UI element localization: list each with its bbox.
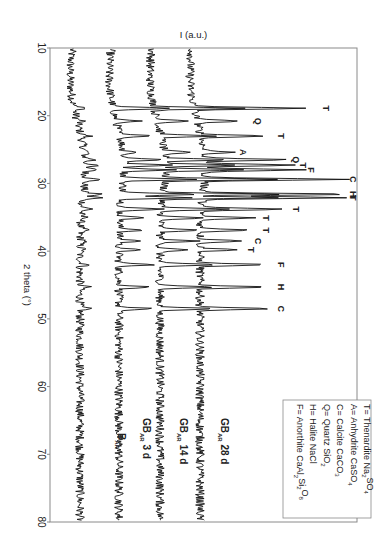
tick-label: 30 (36, 178, 47, 190)
tick-label: 60 (36, 381, 47, 393)
tick-label: 10 (36, 42, 47, 54)
peak-label-C: C (253, 238, 263, 245)
peak-label-A: A (238, 149, 248, 156)
series-label: GBAR 28 d (217, 418, 230, 464)
tick-label: 50 (36, 313, 47, 325)
legend-entry: H= Halite NaCl (308, 404, 318, 464)
tick-label: 40 (36, 246, 47, 258)
legend-entry: Q= Quartz SiO2 (320, 404, 332, 467)
legend: T= Thenardite Na2 SO4 A= Anhydrite CaSO4… (283, 400, 375, 518)
peak-label-T: T (261, 215, 271, 221)
legend-entry: A= Anhydrite CaSO4 (347, 404, 359, 486)
peak-label-F: F (276, 262, 286, 268)
tick-label: 20 (36, 110, 47, 122)
y-axis-title: I (a.u.) (180, 29, 207, 40)
peak-label-T: T (276, 133, 286, 139)
xrd-chart: 10203040506070802 theta (°)I (a.u.) TQTA… (0, 0, 377, 553)
peak-label-T: T (261, 227, 271, 233)
peak-label-T: T (246, 247, 256, 253)
series-label: GBAR 3 d (139, 418, 152, 459)
tick-label: 80 (36, 516, 47, 528)
legend-entry: C= Calcite CaCO3 (334, 404, 346, 477)
peak-label-H: H (276, 284, 286, 291)
peak-label-T: T (291, 206, 301, 212)
series-label: BAR (114, 433, 127, 450)
tick-label: 70 (36, 449, 47, 461)
peak-label-F: F (306, 167, 316, 173)
peak-label-T: T (321, 106, 331, 112)
peak-label-C: C (348, 176, 358, 183)
peak-label-T: T (348, 195, 358, 201)
peak-label-C: C (276, 305, 286, 312)
peak-label-Q: Q (253, 118, 263, 125)
xrd-trace-0 (67, 49, 103, 520)
x-axis-title: 2 theta (°) (22, 264, 33, 306)
series-labels: BARGBAR 3 dGBAR 14 dGBAR 28 d (114, 418, 230, 464)
series-label: GBAR 14 d (176, 418, 189, 464)
